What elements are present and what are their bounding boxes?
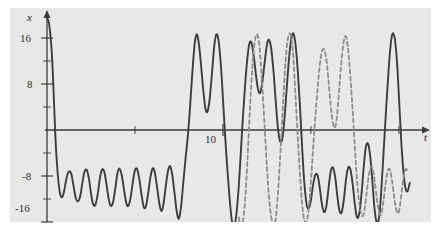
y-tick-label-16: 16 bbox=[20, 33, 31, 44]
x-tick-label-10: 10 bbox=[205, 134, 216, 145]
y-tick-label-minus-16: -16 bbox=[15, 203, 30, 214]
x-axis-label: t bbox=[424, 132, 427, 143]
y-axis-label: x bbox=[27, 12, 32, 23]
y-tick-label-minus-8: -8 bbox=[22, 171, 31, 182]
chart-figure: x t 16 8 -8 -16 10 bbox=[0, 0, 444, 234]
chart-canvas bbox=[0, 0, 444, 234]
data-series-group bbox=[47, 18, 410, 226]
y-tick-label-8: 8 bbox=[27, 79, 33, 90]
series-line-1 bbox=[47, 18, 410, 226]
y-axis-arrow bbox=[44, 10, 51, 18]
axes-group bbox=[41, 10, 430, 222]
